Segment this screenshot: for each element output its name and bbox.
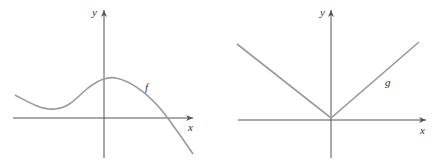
x-axis-label: x (419, 124, 425, 136)
graph-f: f x y (13, 6, 193, 158)
function-label-f: f (145, 81, 150, 93)
y-axis-label: y (319, 6, 325, 18)
graphs-figure: f x y g x y (0, 0, 435, 167)
curve-g (237, 42, 419, 118)
x-axis-label: x (187, 121, 193, 133)
function-label-g: g (385, 76, 391, 88)
graph-g: g x y (237, 6, 426, 158)
y-axis-label: y (91, 6, 97, 18)
